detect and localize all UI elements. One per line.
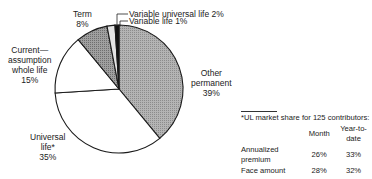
header-ytd: Year-to-date xyxy=(335,124,372,145)
label-text: 15% xyxy=(8,75,51,85)
leader-line-vul xyxy=(117,14,128,26)
cell: 32% xyxy=(335,166,372,177)
cell: 22% xyxy=(335,176,372,178)
label-text: Other xyxy=(191,68,232,78)
header-cell xyxy=(241,124,303,145)
label-universal-life: Universal life* 35% xyxy=(30,132,65,162)
table-row: Face amount 28% 32% xyxy=(241,166,372,177)
label-text: Current— xyxy=(8,45,51,55)
row-label: Number of policies xyxy=(241,176,303,178)
cell: 33% xyxy=(335,145,372,166)
cell: 26% xyxy=(303,145,335,166)
row-label: Face amount xyxy=(241,166,303,177)
label-text: 35% xyxy=(30,152,65,162)
cell: 28% xyxy=(303,166,335,177)
label-text: 8% xyxy=(73,19,92,29)
label-current-assumption-whole-life: Current— assumption whole life 15% xyxy=(8,45,51,85)
label-text: whole life xyxy=(8,65,51,75)
label-text: Universal xyxy=(30,132,65,142)
table-header: Month Year-to-date xyxy=(241,124,372,145)
label-other-permanent: Other permanent 39% xyxy=(191,68,232,98)
row-label: Annualized premium xyxy=(241,145,303,166)
label-text: assumption xyxy=(8,55,51,65)
label-text: permanent xyxy=(191,78,232,88)
label-text: Term xyxy=(73,9,92,19)
pie-slices xyxy=(55,25,183,153)
label-text: 39% xyxy=(191,88,232,98)
footnote-rule xyxy=(241,111,277,112)
cell: 22% xyxy=(303,176,335,178)
label-text: life* xyxy=(30,142,65,152)
label-term: Term 8% xyxy=(73,9,92,29)
label-variable-life: Variable life 1% xyxy=(129,16,187,26)
footnote: *UL market share for 125 contributors: M… xyxy=(241,113,372,178)
footnote-title: *UL market share for 125 contributors: xyxy=(241,113,372,124)
footnote-table: Month Year-to-date Annualized premium 26… xyxy=(241,124,372,179)
table-row: Number of policies 22% 22% xyxy=(241,176,372,178)
table-row: Annualized premium 26% 33% xyxy=(241,145,372,166)
header-month: Month xyxy=(303,124,335,145)
